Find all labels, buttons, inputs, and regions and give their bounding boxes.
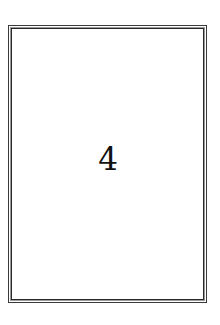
card-number: 4 (98, 144, 118, 175)
card-inner-border: 4 (11, 28, 204, 300)
card-frame: 4 (8, 25, 207, 303)
